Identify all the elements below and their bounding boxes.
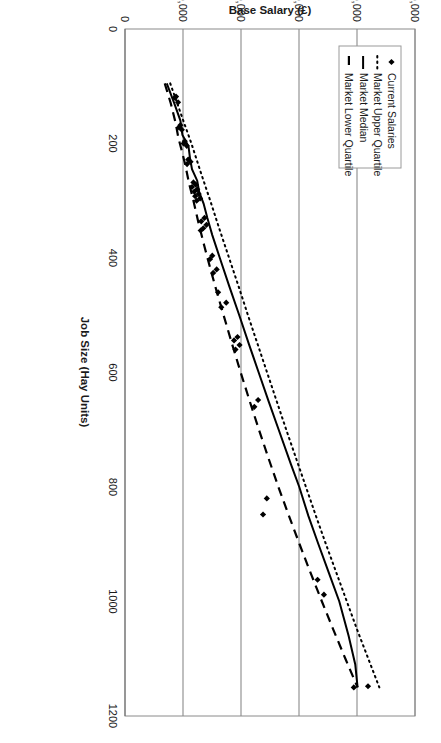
data-point	[260, 511, 266, 517]
data-point	[236, 342, 242, 348]
data-point	[264, 495, 270, 501]
data-point	[365, 683, 371, 689]
x-tick-label: 400	[107, 249, 119, 267]
legend-item-label: Market Upper Quartile	[372, 73, 384, 176]
y-tick-label: 0	[119, 16, 131, 22]
x-tick-label: 800	[107, 478, 119, 496]
x-tick-label: 0	[107, 26, 119, 32]
x-tick-label: 1200	[107, 704, 119, 728]
y-tick-label: 80,000	[351, 0, 363, 22]
chart-legend: Current SalariesMarket Upper QuartileMar…	[339, 46, 401, 176]
x-tick-label: 1000	[107, 589, 119, 613]
legend-item-label: Current Salaries	[386, 73, 398, 149]
data-point	[314, 577, 320, 583]
x-tick-label: 200	[107, 134, 119, 152]
legend-item-label: Market Median	[358, 73, 370, 143]
rotated-figure-container: 020040060080010001200 020,00040,00060,00…	[0, 0, 441, 743]
market-median-line	[167, 83, 358, 687]
chart-figure: 020040060080010001200 020,00040,00060,00…	[0, 0, 441, 743]
legend-item-label: Market Lower Quartile	[343, 73, 355, 176]
y-tick-label: 20,000	[177, 0, 189, 22]
x-axis-title: Job Size (Hay Units)	[79, 317, 91, 428]
y-tick-label: 100,000	[409, 0, 421, 22]
current-salaries-points	[172, 93, 371, 690]
y-axis-title: Base Salary (£)	[229, 4, 312, 16]
x-tick-label: 600	[107, 363, 119, 381]
salary-scatter-chart: 020040060080010001200 020,00040,00060,00…	[0, 0, 441, 743]
data-point	[223, 300, 229, 306]
data-point	[321, 592, 327, 598]
data-point	[218, 304, 224, 310]
x-axis-tick-labels: 020040060080010001200	[107, 26, 119, 728]
data-point	[255, 397, 261, 403]
